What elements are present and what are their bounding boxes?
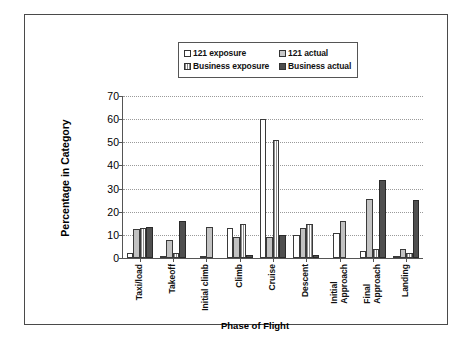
legend-entry-business-exposure: Business exposure bbox=[184, 61, 279, 71]
plot-area: 010203040506070 bbox=[122, 96, 423, 259]
bar-group bbox=[290, 96, 323, 258]
dotted-swatch-icon bbox=[184, 63, 191, 70]
y-axis-tick-mark bbox=[119, 258, 123, 259]
legend-label: Business actual bbox=[288, 61, 351, 71]
bar bbox=[246, 255, 253, 258]
x-axis-label: Takeoff bbox=[155, 264, 188, 322]
bar-group bbox=[356, 96, 389, 258]
y-axis-tick-label: 60 bbox=[107, 113, 119, 125]
bar-group bbox=[323, 96, 356, 258]
legend-row: 121 exposure 121 actual bbox=[184, 47, 352, 59]
bar bbox=[379, 180, 386, 258]
x-axis-label: Landing bbox=[389, 264, 422, 322]
y-axis-tick-label: 0 bbox=[113, 252, 119, 264]
x-axis-label: Descent bbox=[289, 264, 322, 322]
dark-swatch-icon bbox=[279, 63, 286, 70]
legend-row: Business exposure Business actual bbox=[184, 60, 352, 72]
bar bbox=[313, 255, 320, 258]
x-axis-label: Climb bbox=[222, 264, 255, 322]
bar bbox=[306, 224, 313, 258]
bar-group bbox=[156, 96, 189, 258]
x-axis-title: Phase of Flight bbox=[175, 320, 335, 331]
bar bbox=[279, 235, 286, 258]
y-axis-title: Percentage in Category bbox=[56, 93, 74, 263]
bar bbox=[179, 221, 186, 258]
legend-label: Business exposure bbox=[193, 61, 269, 71]
x-axis-label: InitialApproach bbox=[322, 264, 355, 322]
chart-frame: 121 exposure 121 actual Business exposur… bbox=[24, 14, 448, 325]
x-axis-label: Taxi/load bbox=[122, 264, 155, 322]
white-swatch-icon bbox=[184, 50, 191, 57]
y-axis-title-text: Percentage in Category bbox=[59, 119, 71, 236]
bar bbox=[413, 200, 420, 258]
bar-group bbox=[390, 96, 423, 258]
legend-label: 121 exposure bbox=[193, 48, 246, 58]
bar-group bbox=[223, 96, 256, 258]
legend-entry-121-actual: 121 actual bbox=[279, 48, 328, 58]
x-axis-label-text: Cruise bbox=[267, 264, 277, 290]
x-axis-label-text: Initial climb bbox=[200, 264, 210, 311]
legend-entry-121-exposure: 121 exposure bbox=[184, 48, 279, 58]
y-axis-tick-label: 10 bbox=[107, 229, 119, 241]
bar bbox=[240, 224, 247, 258]
x-axis-label: FinalApproach bbox=[355, 264, 388, 322]
x-axis-label: Cruise bbox=[255, 264, 288, 322]
y-axis-tick-label: 20 bbox=[107, 206, 119, 218]
x-axis-label-text: InitialApproach bbox=[329, 264, 348, 304]
y-axis-tick-label: 70 bbox=[107, 90, 119, 102]
bar-group bbox=[256, 96, 289, 258]
x-axis-labels: Taxi/loadTakeoffInitial climbClimbCruise… bbox=[122, 264, 422, 322]
x-axis-label-text: Climb bbox=[234, 264, 244, 288]
y-axis-tick-label: 40 bbox=[107, 159, 119, 171]
x-axis-label-text: Taxi/load bbox=[134, 264, 144, 300]
x-axis-label-text: Landing bbox=[400, 264, 410, 297]
x-axis-label-text: Takeoff bbox=[167, 264, 177, 294]
legend-label: 121 actual bbox=[288, 48, 328, 58]
y-axis-tick-label: 30 bbox=[107, 183, 119, 195]
bar-group bbox=[190, 96, 223, 258]
bar bbox=[146, 227, 153, 258]
bar-group bbox=[123, 96, 156, 258]
bar bbox=[340, 221, 347, 258]
gray-swatch-icon bbox=[279, 50, 286, 57]
chart-legend: 121 exposure 121 actual Business exposur… bbox=[178, 42, 358, 78]
bar-groups bbox=[123, 96, 423, 258]
x-axis-label-text: FinalApproach bbox=[362, 264, 381, 304]
x-axis-label-text: Descent bbox=[300, 264, 310, 297]
x-axis-label: Initial climb bbox=[189, 264, 222, 322]
bar bbox=[206, 227, 213, 258]
y-axis-tick-label: 50 bbox=[107, 136, 119, 148]
legend-entry-business-actual: Business actual bbox=[279, 61, 351, 71]
